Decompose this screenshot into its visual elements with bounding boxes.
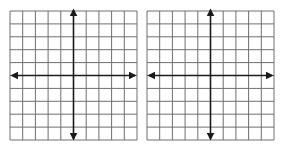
coordinate-plane-right <box>147 10 274 140</box>
coordinate-planes-figure <box>0 0 282 149</box>
coordinate-plane-left <box>10 10 137 140</box>
